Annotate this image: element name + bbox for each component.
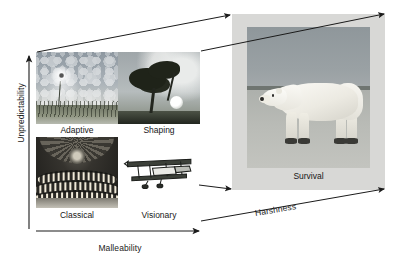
connector-bottom-left: [199, 185, 231, 189]
matrix-cell-label-visionary: Visionary: [118, 210, 200, 220]
matrix-cell-classical[interactable]: Classical: [36, 137, 118, 222]
harshness-axis-label: Harshness: [254, 201, 297, 218]
survival-panel[interactable]: Survival: [232, 14, 385, 190]
matrix-cell-shaping[interactable]: Shaping: [118, 52, 200, 137]
matrix-cell-label-adaptive: Adaptive: [36, 125, 118, 135]
dandelion-seedhead-image: [36, 52, 118, 124]
matrix-cell-label-shaping: Shaping: [118, 125, 200, 135]
matrix-cell-visionary[interactable]: Visionary: [118, 137, 200, 222]
y-axis-label: Unpredictability: [16, 68, 26, 158]
biplane-image: [123, 149, 197, 197]
matrix-cell-label-classical: Classical: [36, 210, 118, 220]
matrix-cell-adaptive[interactable]: Adaptive: [36, 52, 118, 137]
wind-bent-tree-image: [118, 52, 200, 124]
figure-canvas: Adaptive Shaping: [0, 0, 404, 263]
connector-top-left: [37, 15, 230, 52]
strategy-matrix: Adaptive Shaping: [36, 52, 200, 222]
survival-panel-label: Survival: [232, 171, 385, 181]
x-axis-label: Malleability: [60, 243, 180, 253]
polar-bear-photo: [247, 27, 370, 168]
opera-house-interior-image: [36, 137, 118, 208]
